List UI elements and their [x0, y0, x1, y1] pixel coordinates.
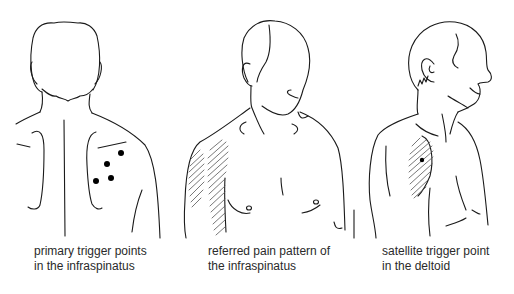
trigger-point-dot — [108, 175, 114, 181]
figure-side-view — [350, 0, 514, 240]
referred-pain-hatched-area — [189, 140, 228, 235]
caption-primary-trigger-points: primary trigger points in the infraspina… — [34, 244, 147, 274]
caption-line: referred pain pattern of — [208, 244, 330, 259]
left-ear — [31, 62, 37, 84]
figure-back-view — [0, 0, 170, 240]
caption-line: the infraspinatus — [208, 259, 330, 274]
front-view-illustration — [170, 0, 350, 240]
head-outline — [31, 22, 100, 92]
right-ear — [95, 62, 101, 84]
caption-line: in the infraspinatus — [34, 259, 147, 274]
satellite-trigger-point-dot — [420, 158, 424, 162]
caption-satellite-trigger-point: satellite trigger point in the deltoid — [382, 244, 489, 274]
back-view-illustration — [0, 0, 170, 240]
caption-referred-pain-pattern: referred pain pattern of the infraspinat… — [208, 244, 330, 274]
trigger-point-dot — [104, 161, 110, 167]
side-view-illustration — [350, 0, 514, 240]
trigger-point-dot — [93, 178, 99, 184]
nipple-right — [314, 200, 319, 204]
trigger-point-dot — [118, 150, 124, 156]
figure-front-view — [170, 0, 350, 240]
nipple-left — [247, 206, 252, 210]
caption-line: in the deltoid — [382, 259, 489, 274]
caption-line: primary trigger points — [34, 244, 147, 259]
caption-line: satellite trigger point — [382, 244, 489, 259]
